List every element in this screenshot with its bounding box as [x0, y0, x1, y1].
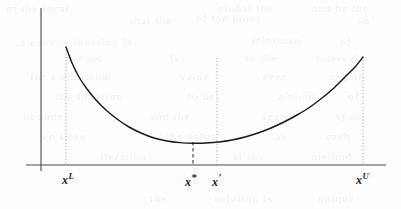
figure-container: of the localglobal theand be thethat the…: [0, 0, 401, 209]
tick-superscript: U: [363, 171, 369, 181]
tick-base: x: [356, 173, 362, 187]
curve-group: [66, 47, 363, 143]
convex-function-curve: [66, 47, 363, 143]
tick-base: x: [212, 175, 218, 189]
guide-lines-group: [66, 47, 363, 165]
x-tick-label-upper-bound: xU: [356, 171, 369, 188]
tick-superscript: L: [69, 171, 74, 181]
x-tick-label-lower-bound: xL: [62, 171, 74, 188]
x-tick-label-x-prime: x′: [212, 171, 222, 190]
plot-svg: [0, 0, 401, 209]
tick-base: x: [185, 175, 191, 189]
tick-superscript: ′: [219, 171, 222, 183]
x-tick-label-optimum: x*: [185, 171, 197, 190]
tick-base: x: [62, 173, 68, 187]
tick-superscript: *: [192, 171, 198, 183]
